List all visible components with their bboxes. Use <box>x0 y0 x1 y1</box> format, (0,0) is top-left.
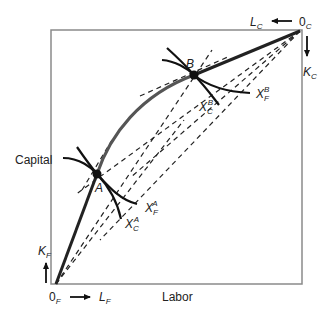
point-a-label: A <box>94 181 103 195</box>
point-a <box>93 170 102 179</box>
point-b-label: B <box>186 57 194 71</box>
contract-curve-lower <box>56 174 97 284</box>
contract-curve-middle <box>97 75 194 174</box>
labor-food-label: LF <box>99 290 112 306</box>
edgeworth-box-diagram: A B XFA XCA XFB XCB Capital Labor 0F LF … <box>0 0 334 315</box>
point-b <box>190 71 199 80</box>
isoquant-clothing-b-label: XCB <box>198 98 214 116</box>
contract-curve-upper <box>194 31 300 75</box>
isoquant-clothing-a-label: XCA <box>124 215 139 233</box>
capital-clothing-label: KC <box>303 65 317 81</box>
origin-food-label: 0F <box>49 290 62 306</box>
box-frame <box>51 30 302 284</box>
isoquant-food-b-label: XFB <box>255 85 270 103</box>
labor-clothing-label: LC <box>250 15 263 31</box>
dashed-lines <box>56 31 300 284</box>
labor-axis-label: Labor <box>162 290 193 304</box>
capital-food-label: KF <box>38 244 52 260</box>
capital-axis-label: Capital <box>15 153 52 167</box>
isoquant-food-a-label: XFA <box>144 199 159 217</box>
origin-clothing-label: 0C <box>299 15 312 31</box>
